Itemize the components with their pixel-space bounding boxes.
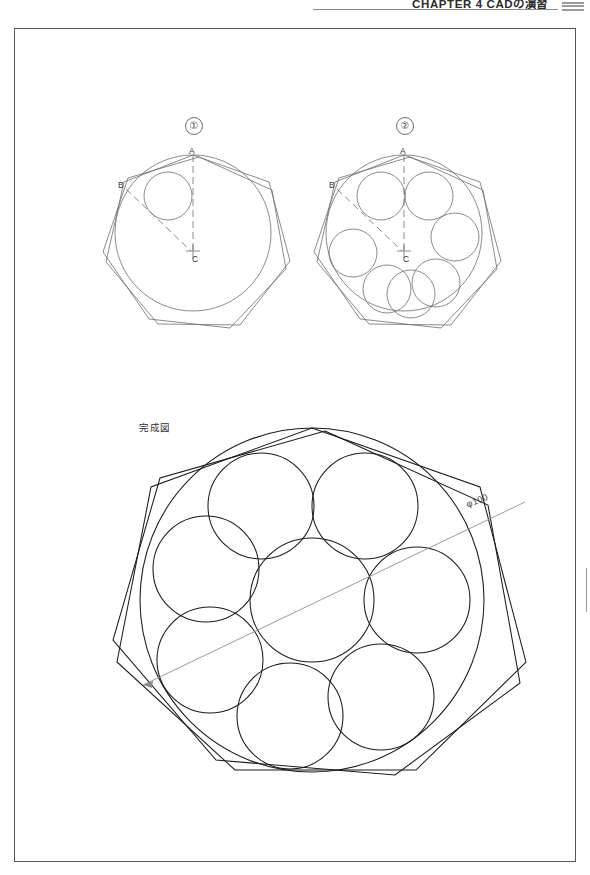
step2-label-a: A	[400, 146, 406, 156]
step2-label-c: C	[403, 254, 409, 264]
step1-label-a: A	[189, 146, 195, 156]
step-number-2: ②	[396, 117, 414, 135]
document-page: CHAPTER 4 CADの演習	[0, 0, 590, 875]
final-figure-caption: 完成図	[139, 420, 171, 434]
step1-label-b: B	[118, 180, 124, 190]
page-frame	[14, 28, 576, 862]
page-index-icon	[562, 0, 584, 12]
step2-label-b: B	[329, 180, 335, 190]
running-header: CHAPTER 4 CADの演習	[0, 0, 590, 16]
step1-label-c: C	[192, 254, 198, 264]
header-rule	[313, 9, 558, 10]
step-number-1: ①	[185, 117, 203, 135]
margin-tick	[586, 568, 589, 612]
